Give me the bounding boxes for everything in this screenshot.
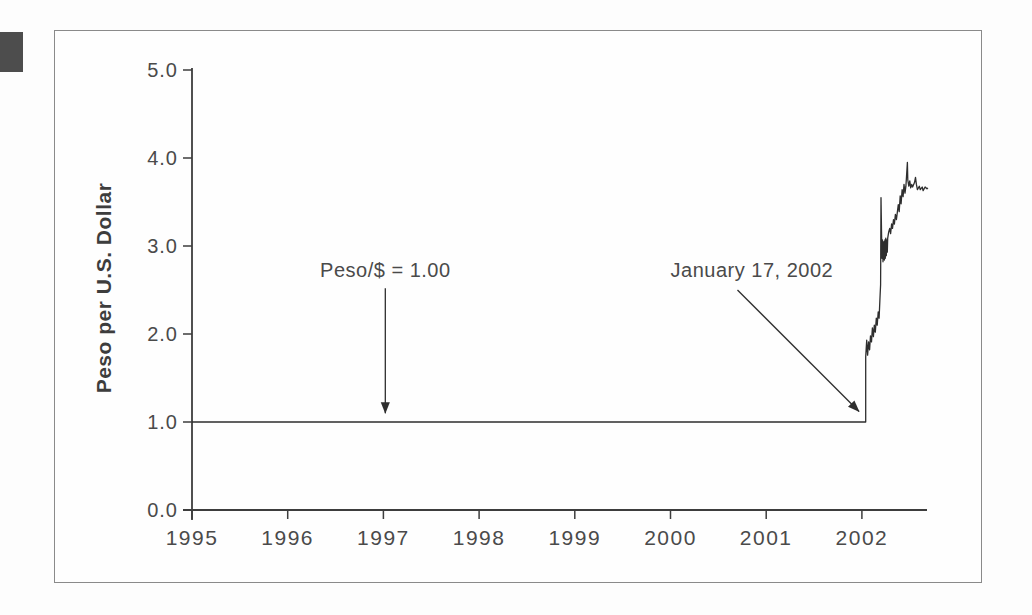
annotation-label-peg: Peso/$ = 1.00 (320, 258, 450, 281)
x-tick-label: 2000 (631, 526, 711, 550)
x-tick-label: 1997 (343, 526, 423, 550)
y-tick-label: 2.0 (118, 322, 178, 346)
x-axis (183, 510, 927, 519)
x-tick-label: 1999 (535, 526, 615, 550)
y-tick-label: 4.0 (118, 146, 178, 170)
annotation-arrow-devaluation (737, 290, 859, 411)
exchange-rate-chart (0, 0, 1032, 615)
y-axis-title: Peso per U.S. Dollar (92, 183, 116, 394)
x-tick-label: 1998 (439, 526, 519, 550)
y-tick-label: 1.0 (118, 410, 178, 434)
annotation-label-devaluation: January 17, 2002 (671, 258, 834, 281)
exchange-rate-line (192, 162, 928, 422)
x-tick-label: 2001 (726, 526, 806, 550)
y-tick-label: 3.0 (118, 234, 178, 258)
y-tick-label: 0.0 (118, 498, 178, 522)
x-tick-label: 1996 (248, 526, 328, 550)
x-tick-label: 2002 (822, 526, 902, 550)
x-tick-label: 1995 (152, 526, 232, 550)
scanned-page: Peso per U.S. Dollar 0.01.02.03.04.05.01… (0, 0, 1032, 615)
y-tick-label: 5.0 (118, 58, 178, 82)
y-axis (183, 68, 192, 520)
